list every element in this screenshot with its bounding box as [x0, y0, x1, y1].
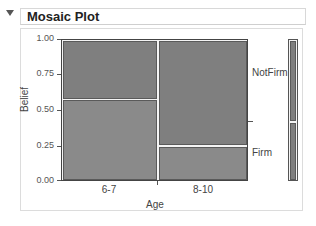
overall-firm-segment[interactable]: [290, 123, 296, 180]
level-label-notfirm: NotFirm: [252, 67, 288, 78]
cell-8-10-notfirm[interactable]: [159, 41, 247, 145]
mosaic-plot-area[interactable]: [61, 39, 248, 181]
cell-6-7-firm[interactable]: [63, 100, 157, 180]
y-axis-label: Belief: [19, 87, 30, 112]
y-tick-025: 0.25: [24, 140, 54, 150]
x-axis-label: Age: [146, 199, 164, 210]
overall-notfirm-segment[interactable]: [290, 41, 296, 121]
x-tick-6-7: 6-7: [89, 184, 129, 195]
y-tick-075: 0.75: [24, 68, 54, 78]
disclosure-triangle-icon[interactable]: [6, 10, 14, 16]
y-tick-1: 1.00: [24, 33, 54, 43]
panel-header[interactable]: Mosaic Plot: [20, 8, 306, 25]
x-tick-8-10: 8-10: [183, 184, 223, 195]
cell-8-10-firm[interactable]: [159, 147, 247, 180]
x-tick-mark: [157, 181, 158, 185]
panel-title: Mosaic Plot: [27, 9, 99, 25]
overall-proportion-bar[interactable]: [288, 39, 298, 181]
cell-6-7-notfirm[interactable]: [63, 41, 157, 99]
level-label-firm: Firm: [252, 147, 272, 158]
right-axis-tick: [248, 121, 253, 122]
y-tick-000: 0.00: [24, 175, 54, 185]
